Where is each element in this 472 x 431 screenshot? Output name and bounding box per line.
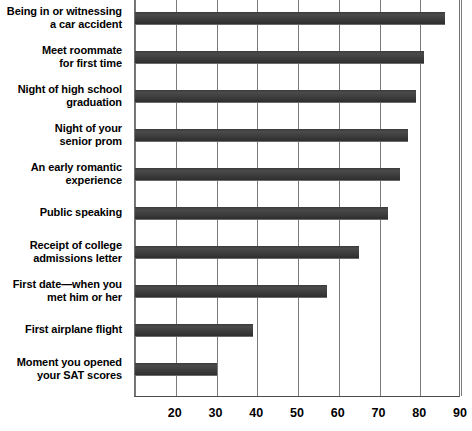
category-label-line: admissions letter	[0, 252, 122, 265]
x-tick-label-50: 50	[290, 406, 304, 420]
category-label-line: Night of high school	[0, 83, 122, 96]
category-label-line: Being in or witnessing	[0, 5, 122, 18]
bar	[135, 12, 445, 25]
category-label-column: Being in or witnessinga car accidentMeet…	[0, 0, 128, 397]
category-label-line: your SAT scores	[0, 369, 122, 382]
category-label-line: a car accident	[0, 18, 122, 31]
category-label: Meet roommatefor first time	[0, 44, 122, 70]
bar	[135, 168, 400, 181]
category-label-line: Public speaking	[0, 206, 122, 219]
category-label-line: Moment you opened	[0, 356, 122, 369]
category-label-line: met him or her	[0, 291, 122, 304]
x-tick-label-80: 80	[412, 406, 426, 420]
category-label: Night of yoursenior prom	[0, 122, 122, 148]
bar	[135, 324, 253, 337]
bar	[135, 285, 327, 298]
x-tick-label-60: 60	[331, 406, 345, 420]
category-label: Moment you openedyour SAT scores	[0, 356, 122, 382]
bar	[135, 246, 359, 259]
x-tick-label-90: 90	[453, 406, 467, 420]
category-label: Receipt of collegeadmissions letter	[0, 239, 122, 265]
category-label-line: First airplane flight	[0, 323, 122, 336]
category-label: An early romanticexperience	[0, 161, 122, 187]
bar	[135, 207, 388, 220]
bar	[135, 363, 217, 376]
x-axis-tick-labels: 2030405060708090	[134, 398, 460, 431]
bar	[135, 51, 424, 64]
bar	[135, 90, 416, 103]
x-tick-label-30: 30	[209, 406, 223, 420]
category-label: First airplane flight	[0, 323, 122, 336]
category-label-line: Night of your	[0, 122, 122, 135]
plot-area	[134, 0, 460, 397]
category-label-line: Receipt of college	[0, 239, 122, 252]
category-label-line: experience	[0, 174, 122, 187]
category-label-line: Meet roommate	[0, 44, 122, 57]
x-tick-label-70: 70	[372, 406, 386, 420]
category-label: Being in or witnessinga car accident	[0, 5, 122, 31]
category-label-line: An early romantic	[0, 161, 122, 174]
x-tick-label-20: 20	[168, 406, 182, 420]
category-label: Public speaking	[0, 206, 122, 219]
category-label-line: First date—when you	[0, 278, 122, 291]
category-label-line: for first time	[0, 57, 122, 70]
gridline-90	[461, 0, 462, 396]
bar	[135, 129, 408, 142]
category-label-line: graduation	[0, 96, 122, 109]
category-label: Night of high schoolgraduation	[0, 83, 122, 109]
bar-chart: Being in or witnessinga car accidentMeet…	[0, 0, 472, 431]
x-tick-label-40: 40	[249, 406, 263, 420]
category-label-line: senior prom	[0, 135, 122, 148]
category-label: First date—when youmet him or her	[0, 278, 122, 304]
